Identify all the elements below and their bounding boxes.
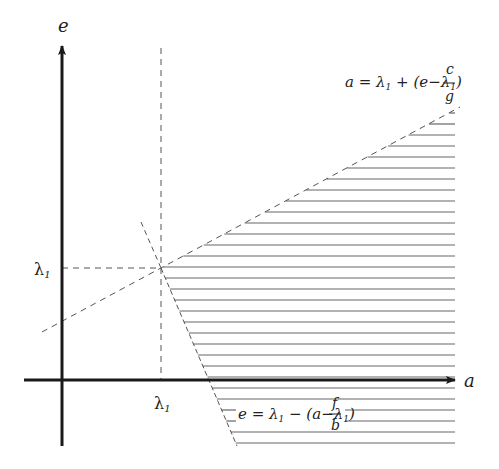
lower-boundary-edge [161, 268, 237, 446]
upper-boundary-line [42, 107, 460, 332]
upper-numerator: c [446, 61, 454, 77]
lower-boundary-line-dashed [141, 222, 161, 268]
upper-denominator: g [445, 88, 454, 104]
y-axis-label: e [58, 15, 69, 36]
lower-denominator: b [331, 417, 340, 433]
upper-boundary-equation: a = λ1 + (e−λ1) c g [345, 61, 462, 104]
x-tick-lambda: λ1 [154, 394, 171, 414]
feasible-region-diagram: e a λ1 λ1 a = λ1 + (e−λ1) c g e = λ1 − (… [0, 0, 499, 469]
x-axis-label: a [464, 370, 475, 391]
y-tick-lambda: λ1 [34, 260, 51, 280]
lower-boundary-equation: e = λ1 − (a−λ1) f b [236, 395, 355, 433]
shaded-region-hatching [163, 113, 455, 443]
